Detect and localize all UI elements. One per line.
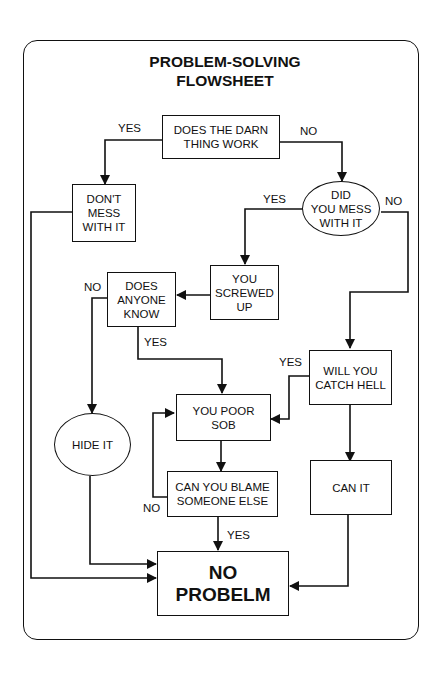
label-blame-no: NO xyxy=(143,501,160,515)
node-text: CAN YOU BLAME SOMEONE ELSE xyxy=(175,480,269,508)
node-did-you-mess-with-it: DID YOU MESS WITH IT xyxy=(302,181,380,236)
label-darn-no: NO xyxy=(300,124,317,138)
label-blame-yes: YES xyxy=(227,528,250,542)
label-mess-no: NO xyxy=(385,194,402,208)
label-darn-yes: YES xyxy=(118,121,141,135)
node-will-you-catch-hell: WILL YOU CATCH HELL xyxy=(309,350,392,405)
node-text: HIDE IT xyxy=(72,438,113,452)
node-does-the-darn-thing-work: DOES THE DARN THING WORK xyxy=(162,115,280,159)
label-know-no: NO xyxy=(84,280,101,294)
node-text: NO PROBELM xyxy=(176,562,271,606)
node-dont-mess-with-it: DON'T MESS WITH IT xyxy=(72,184,136,242)
node-text: DON'T MESS WITH IT xyxy=(83,192,126,234)
node-can-you-blame-someone-else: CAN YOU BLAME SOMEONE ELSE xyxy=(167,471,278,517)
label-hell-yes: YES xyxy=(279,355,302,369)
node-text: WILL YOU CATCH HELL xyxy=(315,364,386,392)
node-you-screwed-up: YOU SCREWED UP xyxy=(210,265,279,320)
node-text: YOU POOR SOB xyxy=(193,404,255,432)
node-text: DOES THE DARN THING WORK xyxy=(174,123,268,151)
node-text: DOES ANYONE KNOW xyxy=(117,279,166,321)
label-know-yes: YES xyxy=(144,335,167,349)
node-hide-it: HIDE IT xyxy=(54,413,131,476)
label-mess-yes: YES xyxy=(263,192,286,206)
node-text: CAN IT xyxy=(332,481,370,495)
node-no-problem: NO PROBELM xyxy=(157,551,289,616)
node-text: YOU SCREWED UP xyxy=(215,272,274,314)
node-does-anyone-know: DOES ANYONE KNOW xyxy=(107,272,176,327)
node-text: DID YOU MESS WITH IT xyxy=(311,188,372,230)
node-can-it: CAN IT xyxy=(310,460,392,515)
node-you-poor-sob: YOU POOR SOB xyxy=(176,394,271,441)
